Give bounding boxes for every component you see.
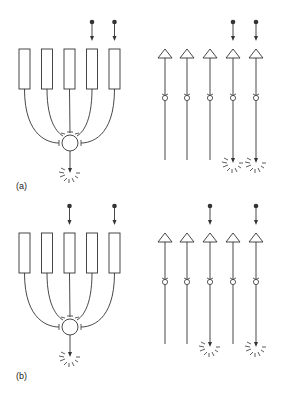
- arrowhead-icon: [113, 220, 117, 225]
- spike-ray: [261, 350, 264, 352]
- synapse-tick: [75, 317, 79, 318]
- synapse-icon: [253, 95, 258, 100]
- arrowhead-icon: [113, 36, 117, 41]
- axon-line: [70, 273, 71, 317]
- input-spike-icon: [112, 204, 117, 225]
- spike-ray: [60, 175, 65, 177]
- arrowhead-icon: [68, 352, 72, 357]
- axon-curve: [81, 89, 115, 143]
- arrowhead-icon: [68, 220, 72, 225]
- axon-curve: [81, 273, 115, 327]
- spike-ray: [250, 352, 253, 355]
- spike-ray: [250, 168, 253, 171]
- neuron-triangle-icon: [180, 233, 194, 242]
- synapse-tick: [75, 133, 79, 134]
- spike-ray: [75, 360, 78, 362]
- spike-ray: [72, 362, 74, 366]
- axon-curve: [47, 273, 63, 320]
- spike-ray: [204, 352, 207, 355]
- spike-ray: [238, 166, 241, 168]
- axon-curve: [77, 273, 92, 320]
- spike-ray: [212, 352, 214, 356]
- input-spike-icon: [231, 20, 236, 41]
- spike-ray: [200, 349, 205, 351]
- arrowhead-icon: [208, 342, 212, 347]
- dendrite-branch-rect: [87, 49, 98, 89]
- spike-ray: [75, 176, 78, 178]
- neuron-soma-icon: [62, 135, 78, 151]
- synapse-tick: [61, 133, 65, 134]
- neuron-soma-icon: [62, 319, 78, 335]
- dendrite-branch-rect: [87, 233, 98, 273]
- axon-curve: [25, 273, 60, 327]
- spike-ray: [61, 352, 65, 354]
- synapse-icon: [162, 95, 167, 100]
- arrowhead-icon: [254, 342, 258, 347]
- spike-ray: [215, 350, 218, 352]
- spike-ray: [258, 168, 260, 172]
- spike-ray: [258, 352, 260, 356]
- panel-a-label: (a): [16, 181, 27, 191]
- spike-ray: [60, 359, 65, 361]
- spike-ray: [261, 166, 264, 168]
- spike-ray: [64, 362, 67, 365]
- spike-ray: [222, 162, 227, 163]
- dendrite-branch-rect: [42, 49, 53, 89]
- neuron-triangle-icon: [249, 49, 263, 58]
- synapse-tick: [61, 317, 65, 318]
- spike-ray: [224, 158, 228, 160]
- dendrite-branch-rect: [64, 49, 75, 89]
- spike-ray: [201, 342, 205, 344]
- arrowhead-icon: [254, 36, 258, 41]
- dendrite-branch-rect: [64, 233, 75, 273]
- arrowhead-icon: [231, 158, 235, 163]
- parallel-network: [158, 20, 266, 173]
- panel-b: [19, 204, 266, 367]
- synapse-icon: [207, 95, 212, 100]
- axon-curve: [25, 89, 60, 143]
- neuron-triangle-icon: [158, 233, 172, 242]
- arrowhead-icon: [208, 220, 212, 225]
- neuron-triangle-icon: [249, 233, 263, 242]
- input-spike-icon: [67, 204, 72, 225]
- dendrite-branch-rect: [109, 233, 120, 273]
- dendrite-branch-rect: [109, 49, 120, 89]
- convergent-network: [19, 204, 120, 367]
- synapse-icon: [207, 279, 212, 284]
- dendrite-branch-rect: [19, 49, 30, 89]
- synapse-icon: [162, 279, 167, 284]
- spike-ray: [223, 165, 228, 167]
- synapse-icon: [230, 95, 235, 100]
- spike-ray: [247, 158, 251, 160]
- spike-ray: [245, 162, 250, 163]
- neuron-triangle-icon: [226, 49, 240, 58]
- panel-b-label: (b): [16, 371, 27, 381]
- spike-ray: [199, 346, 204, 347]
- neuron-triangle-icon: [158, 49, 172, 58]
- neural-network-diagram: [0, 0, 286, 394]
- axon-line: [70, 89, 71, 133]
- neuron-triangle-icon: [203, 49, 217, 58]
- input-spike-icon: [90, 20, 95, 41]
- panel-a: [19, 20, 266, 183]
- arrowhead-icon: [68, 168, 72, 173]
- synapse-icon: [184, 95, 189, 100]
- spike-ray: [59, 172, 64, 173]
- arrowhead-icon: [254, 220, 258, 225]
- dendrite-branch-rect: [19, 233, 30, 273]
- spike-ray: [61, 168, 65, 170]
- input-spike-icon: [254, 20, 259, 41]
- spike-ray: [245, 346, 250, 347]
- convergent-network: [19, 20, 120, 183]
- neuron-triangle-icon: [226, 233, 240, 242]
- axon-curve: [77, 89, 92, 136]
- neuron-triangle-icon: [180, 49, 194, 58]
- spike-ray: [247, 342, 251, 344]
- spike-ray: [246, 165, 251, 167]
- spike-ray: [227, 168, 230, 171]
- input-spike-icon: [208, 204, 213, 225]
- neuron-triangle-icon: [203, 233, 217, 242]
- arrowhead-icon: [90, 36, 94, 41]
- dendrite-branch-rect: [42, 233, 53, 273]
- input-spike-icon: [254, 204, 259, 225]
